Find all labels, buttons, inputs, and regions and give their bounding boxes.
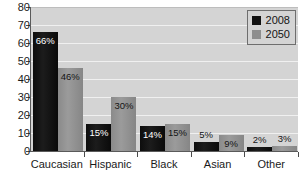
bar-group: 66%46% — [33, 7, 83, 151]
bar-value-label: 3% — [272, 134, 297, 144]
x-axis-category-label: Caucasian — [30, 159, 84, 170]
y-axis-tick-label: 70 — [6, 20, 30, 31]
bar-other-2008: 2% — [247, 147, 272, 151]
y-axis-tick-label: 10 — [6, 128, 30, 139]
bar-asian-2008: 5% — [194, 142, 219, 151]
bar-other-2050: 3% — [272, 146, 297, 151]
y-axis-tick-label: 0 — [6, 146, 30, 157]
legend-item-2008: 2008 — [252, 13, 290, 27]
bar-asian-2050: 9% — [219, 135, 244, 151]
legend-swatch-icon — [252, 30, 261, 39]
x-axis-category-label: Other — [244, 159, 298, 170]
x-axis-category-label: Hispanic — [84, 159, 138, 170]
y-axis-tick-label: 40 — [6, 74, 30, 85]
bar-group: 5%9% — [194, 7, 244, 151]
legend-label: 2008 — [266, 15, 290, 26]
bar-hispanic-2008: 15% — [86, 124, 111, 151]
bar-chart: 01020304050607080 66%46%15%30%14%15%5%9%… — [0, 0, 304, 178]
bar-caucasian-2008: 66% — [33, 32, 58, 151]
y-axis-tick-label: 30 — [6, 92, 30, 103]
legend-swatch-icon — [252, 16, 261, 25]
bar-hispanic-2050: 30% — [111, 97, 136, 151]
bar-value-label: 9% — [219, 139, 244, 149]
bar-value-label: 5% — [194, 130, 219, 140]
bar-value-label: 66% — [33, 36, 58, 46]
x-axis-tick — [244, 152, 245, 157]
bar-value-label: 46% — [58, 72, 83, 82]
bar-caucasian-2050: 46% — [58, 68, 83, 151]
bar-value-label: 30% — [111, 101, 136, 111]
y-axis-tick-label: 60 — [6, 38, 30, 49]
x-axis-tick — [191, 152, 192, 157]
bar-value-label: 2% — [247, 135, 272, 145]
y-axis-tick-label: 50 — [6, 56, 30, 67]
x-axis-tick — [137, 152, 138, 157]
bar-value-label: 15% — [86, 128, 111, 138]
bar-value-label: 14% — [140, 130, 165, 140]
chart-legend: 20082050 — [247, 10, 296, 45]
bar-group: 15%30% — [86, 7, 136, 151]
legend-item-2050: 2050 — [252, 27, 290, 41]
legend-label: 2050 — [266, 29, 290, 40]
x-axis-tick — [298, 152, 299, 157]
bar-black-2050: 15% — [165, 124, 190, 151]
x-axis-category-label: Asian — [191, 159, 245, 170]
y-axis-tick-label: 20 — [6, 110, 30, 121]
y-axis-tick-label: 80 — [6, 2, 30, 13]
bar-group: 14%15% — [140, 7, 190, 151]
x-axis-category-label: Black — [137, 159, 191, 170]
bar-value-label: 15% — [165, 128, 190, 138]
x-axis-tick — [84, 152, 85, 157]
bar-black-2008: 14% — [140, 126, 165, 151]
y-axis: 01020304050607080 — [0, 0, 30, 153]
